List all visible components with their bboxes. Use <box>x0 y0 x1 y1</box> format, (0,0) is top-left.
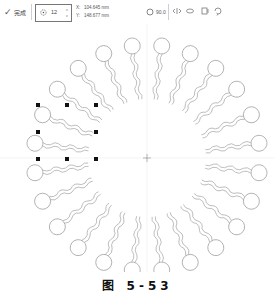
molecule-tail <box>166 60 187 104</box>
molecule-tail <box>62 191 100 221</box>
molecule-tail <box>49 178 93 198</box>
molecule-tail <box>167 213 187 257</box>
rotation-copies-icon <box>39 8 48 17</box>
resize-handle[interactable] <box>94 157 98 161</box>
mirror-vertical-icon[interactable] <box>185 6 195 16</box>
angle-value: 90.0 <box>156 9 166 15</box>
lipid-molecule[interactable] <box>198 173 261 212</box>
molecule-head <box>205 236 227 258</box>
molecule-tail <box>202 177 246 198</box>
lipid-molecule[interactable] <box>177 200 227 259</box>
molecule-tail <box>151 53 160 99</box>
molecule-tail <box>62 94 100 125</box>
molecule-head <box>32 104 53 125</box>
molecule-head <box>180 252 201 272</box>
molecule-tail <box>194 94 232 124</box>
molecule-head <box>93 43 114 64</box>
molecule-tail <box>192 194 230 224</box>
rotate-icon[interactable] <box>213 6 223 16</box>
lipid-molecule[interactable] <box>162 209 201 272</box>
mirror-icon[interactable] <box>172 6 182 16</box>
lipid-molecule[interactable] <box>123 37 147 101</box>
molecule-tail <box>107 60 127 104</box>
figure-caption: 图 5-53 <box>0 276 275 293</box>
molecule-tail <box>42 145 88 154</box>
spin-down-icon[interactable]: ˅ <box>66 13 68 19</box>
molecule-head <box>225 216 247 238</box>
molecule-tail <box>155 54 164 100</box>
resize-handle[interactable] <box>36 157 40 161</box>
molecule-tail <box>170 211 191 255</box>
molecule-head <box>241 104 262 125</box>
divider <box>31 4 32 20</box>
molecule-tail <box>151 217 160 263</box>
lipid-molecule[interactable] <box>189 188 248 238</box>
molecule-tail <box>133 53 142 99</box>
resize-handle[interactable] <box>36 103 40 107</box>
lipid-molecule[interactable] <box>177 57 227 116</box>
molecule-tail <box>183 75 213 113</box>
molecule-tail <box>180 205 210 243</box>
molecule-tail <box>200 115 244 136</box>
resize-handle[interactable] <box>94 130 98 134</box>
molecule-tail <box>130 216 139 262</box>
drawing-canvas[interactable] <box>0 24 275 272</box>
lipid-molecule[interactable] <box>67 57 117 116</box>
molecule-tail <box>205 166 251 175</box>
molecule-tail <box>50 115 94 135</box>
x-value: 104.645 mm <box>84 5 109 10</box>
lipid-molecule[interactable] <box>189 78 248 128</box>
lipid-molecule[interactable] <box>46 188 105 238</box>
molecule-tail <box>202 118 246 138</box>
molecule-tail <box>104 211 124 255</box>
molecule-tail <box>83 73 113 111</box>
lipid-molecule[interactable] <box>26 158 90 182</box>
copies-input[interactable]: 12 ˄ ˅ <box>35 4 72 22</box>
molecule-head <box>180 43 201 64</box>
molecule-head <box>241 191 262 212</box>
lipid-molecule[interactable] <box>32 104 95 143</box>
molecule-head <box>26 164 44 182</box>
molecule-head <box>153 37 171 55</box>
resize-handle[interactable] <box>36 130 40 134</box>
lipid-molecule[interactable] <box>93 209 132 272</box>
apply-button[interactable]: ✓ 完成 <box>4 6 26 18</box>
lipid-molecule[interactable] <box>147 215 171 272</box>
x-coordinate[interactable]: X:104.645 mm <box>76 5 109 10</box>
lipid-molecule[interactable] <box>93 43 132 106</box>
property-bar: ✓ 完成 12 ˄ ˅ X:104.645 mm Y:148.677 mm 90… <box>0 0 275 24</box>
molecule-tail <box>43 141 89 150</box>
rotation-center-marker[interactable] <box>143 154 151 162</box>
molecule-tail <box>83 205 114 243</box>
molecule-head <box>46 78 68 100</box>
molecule-head <box>225 78 247 100</box>
copies-spinner[interactable]: ˄ ˅ <box>66 7 68 19</box>
lipid-molecule[interactable] <box>26 134 90 158</box>
molecule-tail <box>107 213 128 257</box>
align-icon[interactable] <box>200 6 210 16</box>
molecule-tail <box>42 162 88 171</box>
lipid-molecule[interactable] <box>204 134 268 158</box>
lipid-molecule[interactable] <box>147 37 171 101</box>
lipid-molecule[interactable] <box>123 215 147 272</box>
lipid-molecule[interactable] <box>67 200 117 259</box>
molecule-head <box>205 57 227 79</box>
y-coordinate[interactable]: Y:148.677 mm <box>76 13 109 18</box>
check-icon: ✓ <box>4 8 12 17</box>
molecule-tail <box>81 203 111 241</box>
molecule-head <box>67 236 89 258</box>
angle-input[interactable]: 90.0 <box>146 8 166 16</box>
molecule-tail <box>180 73 211 111</box>
molecule-tail <box>200 181 244 201</box>
resize-handle[interactable] <box>65 157 69 161</box>
lipid-molecule[interactable] <box>204 158 268 182</box>
apply-label: 完成 <box>14 8 26 17</box>
molecule-head <box>123 37 141 55</box>
molecule-tail <box>170 61 190 105</box>
lipid-molecule[interactable] <box>162 43 201 106</box>
lipid-molecule[interactable] <box>198 104 261 143</box>
resize-handle[interactable] <box>65 103 69 107</box>
molecule-head <box>93 252 114 272</box>
lipid-molecule[interactable] <box>32 173 95 212</box>
resize-handle[interactable] <box>94 103 98 107</box>
